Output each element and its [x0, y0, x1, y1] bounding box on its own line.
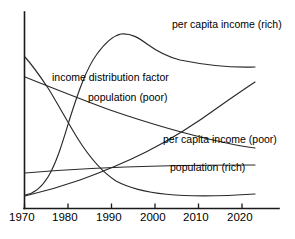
series-label-income-distribution-factor: income distribution factor — [52, 71, 169, 83]
series-label-per-capita-income-poor: per capita income (poor) — [163, 133, 277, 145]
xtick-label-2000: 2000 — [140, 211, 166, 223]
series-label-per-capita-income-rich: per capita income (rich) — [172, 18, 282, 30]
series-label-population-rich: population (rich) — [170, 161, 245, 173]
xtick-label-1980: 1980 — [52, 211, 78, 223]
xtick-label-1970: 1970 — [9, 211, 35, 223]
xtick-label-2010: 2010 — [183, 211, 209, 223]
xtick-label-2020: 2020 — [227, 211, 253, 223]
line-chart: 1970 1980 1990 2000 2010 2020 per capita… — [0, 0, 295, 239]
plot-area — [0, 0, 295, 239]
series-label-population-poor: population (poor) — [88, 91, 167, 103]
xtick-label-1990: 1990 — [96, 211, 122, 223]
